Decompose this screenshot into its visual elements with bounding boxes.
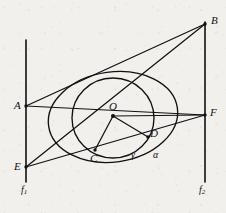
segment-O-F xyxy=(113,115,205,116)
point-label-E: E xyxy=(14,161,21,172)
curve-label-gamma: γ xyxy=(131,150,135,160)
vertex-dot-F xyxy=(203,113,206,116)
geometry-figure: ABCDEFOαγf1f2 xyxy=(0,0,226,213)
point-label-A: A xyxy=(14,100,21,111)
axis-label-f1: f1 xyxy=(21,185,27,196)
axis-label-subscript-f2: 2 xyxy=(202,188,206,196)
segment-O-D xyxy=(113,116,148,137)
vertex-dot-E xyxy=(24,165,27,168)
segment-E-B xyxy=(26,24,205,167)
point-label-O: O xyxy=(109,101,117,112)
curve-label-alpha: α xyxy=(153,150,158,160)
vertex-dot-B xyxy=(203,22,206,25)
segment-A-B xyxy=(26,24,205,106)
axis-label-f2: f2 xyxy=(199,185,205,196)
axis-label-subscript-f1: 1 xyxy=(24,188,28,196)
vertex-dot-O xyxy=(111,114,115,118)
vertex-dot-A xyxy=(24,104,27,107)
segment-E-F xyxy=(26,115,205,167)
point-label-C: C xyxy=(90,153,97,164)
point-label-B: B xyxy=(211,15,218,26)
point-label-D: D xyxy=(150,128,158,139)
point-label-F: F xyxy=(210,107,217,118)
